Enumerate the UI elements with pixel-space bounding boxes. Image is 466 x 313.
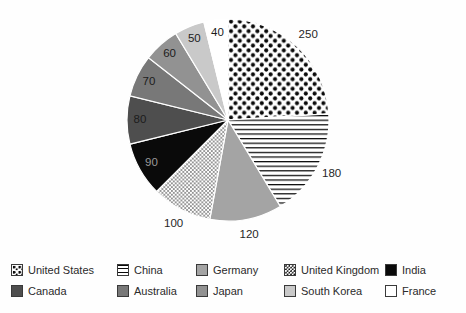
legend-swatch-canada (11, 285, 23, 297)
pie-value-label-china: 180 (322, 167, 341, 179)
pie-chart-canvas: 250180120100908070605040 (0, 0, 466, 258)
legend-label-canada: Canada (28, 285, 67, 297)
legend-swatch-germany (196, 264, 208, 276)
legend-item-china: China (117, 264, 196, 276)
pie-value-label-japan: 60 (163, 47, 176, 59)
legend-swatch-japan (196, 285, 208, 297)
legend-swatch-united-states (11, 264, 23, 276)
legend-label-germany: Germany (213, 264, 258, 276)
pie-value-label-canada: 80 (134, 113, 147, 125)
legend-swatch-south-korea (284, 285, 296, 297)
pie-value-label-south-korea: 50 (188, 32, 201, 44)
legend-label-france: France (402, 285, 436, 297)
legend-label-india: India (402, 264, 426, 276)
legend-item-india: India (385, 264, 461, 276)
legend-item-australia: Australia (117, 285, 196, 297)
pie-value-label-germany: 120 (240, 228, 259, 240)
pie-value-label-united-states: 250 (299, 28, 318, 40)
legend-swatch-china (117, 264, 129, 276)
legend-item-japan: Japan (196, 285, 284, 297)
legend-item-france: France (385, 285, 461, 297)
legend-label-japan: Japan (213, 285, 243, 297)
legend-label-china: China (134, 264, 163, 276)
chart-legend: United StatesChinaGermanyUnited KingdomI… (11, 264, 461, 297)
legend-item-united-kingdom: United Kingdom (284, 264, 385, 276)
pie-value-label-france: 40 (211, 26, 224, 38)
legend-item-germany: Germany (196, 264, 284, 276)
pie-value-label-united-kingdom: 100 (164, 217, 183, 229)
legend-swatch-united-kingdom (284, 264, 296, 276)
legend-swatch-australia (117, 285, 129, 297)
legend-label-australia: Australia (134, 285, 177, 297)
pie-chart-figure: 250180120100908070605040 United StatesCh… (0, 0, 466, 313)
legend-item-canada: Canada (11, 285, 117, 297)
legend-item-south-korea: South Korea (284, 285, 385, 297)
pie-slices-group (127, 19, 329, 221)
legend-label-united-states: United States (28, 264, 94, 276)
legend-item-united-states: United States (11, 264, 117, 276)
legend-label-south-korea: South Korea (301, 285, 362, 297)
legend-swatch-india (385, 264, 397, 276)
legend-label-united-kingdom: United Kingdom (301, 264, 379, 276)
legend-swatch-france (385, 285, 397, 297)
pie-value-label-india: 90 (145, 156, 158, 168)
pie-value-label-australia: 70 (143, 75, 156, 87)
